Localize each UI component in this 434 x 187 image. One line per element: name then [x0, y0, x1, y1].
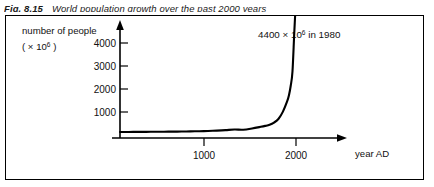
y-axis-label-line2: ( × 106 ) [22, 41, 56, 53]
y-axis-label-line1: number of people [22, 25, 97, 36]
figure-title: World population growth over the past 20… [52, 3, 266, 12]
y-tick-marks [120, 43, 128, 112]
x-tick-label-2000: 2000 [285, 150, 308, 161]
plot-frame: 4000 3000 2000 1000 1000 2000 year AD nu… [5, 15, 424, 180]
annotation-4400-1980: 4400 × 106 in 1980 [258, 29, 341, 41]
annotation-suffix: in 1980 [306, 29, 341, 40]
y-axis-arrow-icon [116, 20, 124, 30]
figure-caption: Fig. 8.15World population growth over th… [4, 0, 424, 12]
x-axis-arrow-icon [337, 134, 347, 142]
x-tick-label-1000: 1000 [193, 150, 216, 161]
y-tick-label-3000: 3000 [94, 61, 117, 72]
y-tick-label-4000: 4000 [94, 38, 117, 49]
population-growth-chart: 4000 3000 2000 1000 1000 2000 year AD nu… [6, 16, 423, 179]
x-tick-marks [204, 138, 296, 146]
y-tick-label-2000: 2000 [94, 84, 117, 95]
y-axis-label-prefix: ( × 10 [22, 41, 47, 52]
y-tick-label-1000: 1000 [94, 107, 117, 118]
figure-number: Fig. 8.15 [4, 3, 43, 12]
figure-container: Fig. 8.15World population growth over th… [0, 0, 434, 187]
x-axis-label: year AD [355, 148, 389, 159]
annotation-prefix: 4400 × 10 [258, 29, 302, 40]
y-axis-label-suffix: ) [50, 41, 56, 52]
